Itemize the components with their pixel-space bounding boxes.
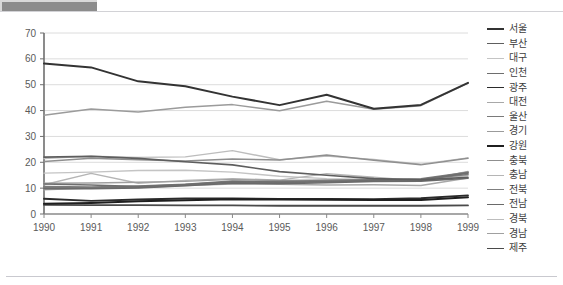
y-tick-label: 30 [25, 131, 37, 142]
legend-label: 서울 [509, 24, 527, 34]
legend-label: 제주 [509, 243, 527, 253]
legend-color-swatch [487, 87, 504, 88]
legend-color-swatch [487, 131, 504, 132]
x-tick-labels: 1990199119921993199419951996199719981999 [33, 222, 480, 233]
legend-color-swatch [487, 160, 504, 161]
legend-item-5[interactable]: 대전 [487, 95, 561, 110]
x-tick-label: 1999 [457, 222, 480, 233]
legend-item-9[interactable]: 충북 [487, 153, 561, 168]
chart-page: 010203040506070 199019911992199319941995… [0, 0, 563, 285]
window-title-strip [0, 0, 97, 11]
legend-color-swatch [487, 219, 504, 220]
footer-divider [6, 276, 557, 277]
header-divider [0, 11, 563, 12]
legend-label: 충북 [509, 156, 527, 166]
y-tick-label: 0 [30, 209, 36, 220]
x-tick-label: 1990 [33, 222, 56, 233]
legend-label: 경남 [509, 229, 527, 239]
legend-label: 대구 [509, 53, 527, 63]
legend-color-swatch [487, 248, 504, 249]
legend-item-1[interactable]: 부산 [487, 37, 561, 52]
legend-item-6[interactable]: 울산 [487, 110, 561, 125]
legend-color-swatch [487, 43, 504, 44]
legend-label: 경북 [509, 214, 527, 224]
legend-color-swatch [487, 189, 504, 190]
legend-item-2[interactable]: 대구 [487, 51, 561, 66]
legend-color-swatch [487, 204, 504, 205]
legend-item-3[interactable]: 인천 [487, 66, 561, 81]
y-tick-label: 20 [25, 157, 37, 168]
x-tick-label: 1996 [316, 222, 339, 233]
legend-color-swatch [487, 28, 504, 30]
x-tick-label: 1993 [174, 222, 197, 233]
legend-label: 전남 [509, 199, 527, 209]
legend-label: 인천 [509, 68, 527, 78]
legend-label: 광주 [509, 83, 527, 93]
chart-canvas: 010203040506070 199019911992199319941995… [0, 14, 480, 262]
legend-color-swatch [487, 233, 504, 234]
legend-color-swatch [487, 175, 504, 176]
legend-label: 대전 [509, 97, 527, 107]
y-tick-label: 40 [25, 105, 37, 116]
legend-item-13[interactable]: 경북 [487, 212, 561, 227]
x-tick-label: 1994 [221, 222, 244, 233]
legend-color-swatch [487, 102, 504, 103]
chart-legend: 서울부산대구인천광주대전울산경기강원충북충남전북전남경북경남제주 [487, 22, 561, 256]
x-tick-label: 1998 [410, 222, 433, 233]
legend-label: 울산 [509, 112, 527, 122]
legend-label: 경기 [509, 126, 527, 136]
legend-label: 부산 [509, 39, 527, 49]
y-tick-label: 70 [25, 28, 37, 39]
x-tick-label: 1992 [127, 222, 150, 233]
legend-item-11[interactable]: 전북 [487, 183, 561, 198]
legend-label: 충남 [509, 170, 527, 180]
y-tick-labels: 010203040506070 [25, 28, 44, 220]
legend-label: 강원 [509, 141, 527, 151]
series-line-15 [44, 205, 468, 206]
line-chart: 010203040506070 199019911992199319941995… [0, 14, 480, 262]
legend-label: 전북 [509, 185, 527, 195]
legend-item-10[interactable]: 충남 [487, 168, 561, 183]
legend-item-0[interactable]: 서울 [487, 22, 561, 37]
legend-item-14[interactable]: 경남 [487, 226, 561, 241]
x-tick-label: 1997 [363, 222, 386, 233]
y-tick-label: 10 [25, 183, 37, 194]
legend-item-4[interactable]: 광주 [487, 80, 561, 95]
y-tick-label: 50 [25, 79, 37, 90]
series-line-0 [44, 64, 468, 109]
x-tick-label: 1991 [80, 222, 103, 233]
x-tick-marks [44, 214, 468, 218]
x-tick-label: 1995 [268, 222, 291, 233]
legend-color-swatch [487, 58, 504, 59]
legend-item-15[interactable]: 제주 [487, 241, 561, 256]
legend-item-7[interactable]: 경기 [487, 124, 561, 139]
legend-color-swatch [487, 73, 504, 74]
legend-color-swatch [487, 116, 504, 117]
legend-item-8[interactable]: 강원 [487, 139, 561, 154]
legend-item-12[interactable]: 전남 [487, 197, 561, 212]
legend-color-swatch [487, 145, 504, 147]
y-tick-label: 60 [25, 53, 37, 64]
